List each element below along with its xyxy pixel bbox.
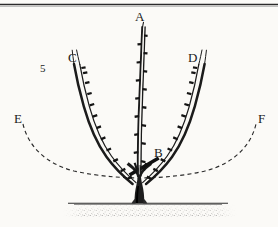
trunk-base xyxy=(132,175,148,203)
label-D: D xyxy=(188,51,197,64)
label-F: F xyxy=(258,112,265,125)
figure-number: 5 xyxy=(40,63,46,74)
top-horizontal-rule xyxy=(0,5,278,7)
label-E: E xyxy=(14,112,22,125)
figure-container: A B C D E F 5 xyxy=(0,0,278,227)
figure-drawing xyxy=(0,0,278,227)
label-C: C xyxy=(68,51,77,64)
label-A: A xyxy=(135,10,144,23)
label-B: B xyxy=(154,146,163,159)
soil-line xyxy=(60,202,240,217)
left-scaffold-branch xyxy=(72,50,136,184)
central-leader-stem xyxy=(133,22,147,176)
